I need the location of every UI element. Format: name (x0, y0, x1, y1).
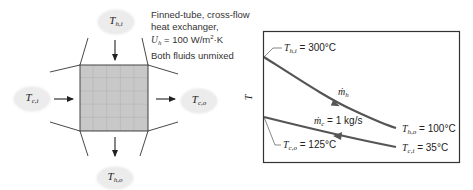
label-hot-inlet: Th,i (94, 14, 138, 28)
heat-exchanger-core (80, 65, 148, 131)
y-axis-label: T (243, 95, 254, 101)
description-line-2: heat exchanger, (151, 21, 250, 33)
description-line-4: Both fluids unmixed (151, 50, 250, 62)
label-hot-outlet: Th,o (93, 170, 137, 184)
label-cold-outlet-temp: Tc,o = 125°C (283, 139, 336, 152)
exchanger-description: Finned-tube, cross-flow heat exchanger, … (151, 9, 250, 61)
label-cold-inlet: Tc,i (10, 91, 54, 105)
label-hot-mass-flow: ṁh (338, 86, 349, 99)
label-hot-outlet-temp: Th,o = 100°C (402, 123, 456, 136)
description-line-3: Uh = 100 W/m2·K (151, 32, 250, 50)
label-cold-outlet: Tc,o (177, 93, 221, 107)
label-cold-mass-flow: ṁc = 1 kg/s (314, 115, 362, 128)
description-line-1: Finned-tube, cross-flow (151, 9, 250, 21)
label-cold-inlet-temp: Tc,i = 35°C (402, 142, 448, 155)
label-hot-inlet-temp: Th,i = 300°C (284, 42, 336, 55)
